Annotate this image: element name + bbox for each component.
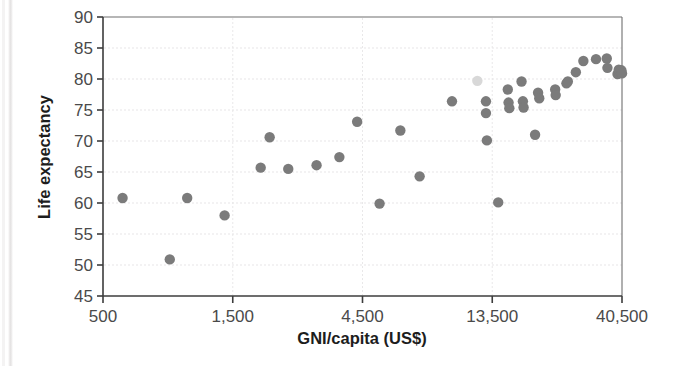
data-point [283,164,293,174]
y-tick-label: 80 [74,70,93,89]
data-point [563,76,573,86]
data-point [117,193,127,203]
data-point [617,68,627,78]
horizontal-gridlines [104,48,622,265]
data-point [516,76,526,86]
x-axis-tick-labels: 5001,5004,50013,50040,500 [89,307,648,326]
y-tick-label: 55 [74,225,93,244]
data-point [481,108,491,118]
x-axis-title: GNI/capita (US$) [297,329,426,347]
data-point [493,197,503,207]
y-tick-label: 90 [74,8,93,27]
data-point [534,93,544,103]
data-point [482,135,492,145]
data-point [334,152,344,162]
y-axis-title: Life expectancy [35,94,53,219]
y-tick-label: 50 [74,256,93,275]
data-points [117,53,627,264]
data-point [503,84,513,94]
x-tick-label: 13,500 [466,307,518,326]
data-point [447,96,457,106]
y-tick-label: 45 [74,287,93,306]
data-point [518,102,528,112]
data-point [530,130,540,140]
x-tick-label: 1,500 [211,307,254,326]
data-point [550,90,560,100]
data-point [311,160,321,170]
data-point [481,96,491,106]
vertical-gridlines [233,18,493,295]
y-tick-label: 65 [74,163,93,182]
y-tick-label: 75 [74,101,93,120]
data-point [571,67,581,77]
data-point [414,171,424,181]
x-tick-label: 40,500 [596,307,648,326]
data-point [374,198,384,208]
data-point [472,76,482,86]
data-point [255,162,265,172]
chart-svg: 45505560657075808590 5001,5004,50013,500… [0,0,674,366]
y-tick-label: 60 [74,194,93,213]
y-axis-tick-labels: 45505560657075808590 [74,8,93,306]
data-point [182,193,192,203]
x-tick-label: 500 [89,307,117,326]
y-axis-ticks [97,17,103,296]
data-point [165,254,175,264]
data-point [395,125,405,135]
y-tick-label: 85 [74,39,93,58]
data-point [504,103,514,113]
data-point [602,63,612,73]
x-tick-label: 4,500 [341,307,384,326]
data-point [219,210,229,220]
data-point [352,117,362,127]
data-point [578,56,588,66]
y-tick-label: 70 [74,132,93,151]
x-axis-ticks [103,296,622,303]
data-point [591,54,601,64]
figure-canvas: 45505560657075808590 5001,5004,50013,500… [0,0,674,366]
scatter-plot: 45505560657075808590 5001,5004,50013,500… [0,0,674,366]
data-point [602,53,612,63]
data-point [264,132,274,142]
